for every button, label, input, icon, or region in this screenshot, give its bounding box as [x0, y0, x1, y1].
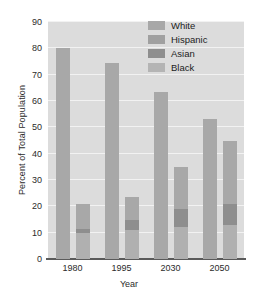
y-tick-label: 90: [14, 17, 42, 27]
y-tick-label: 80: [14, 43, 42, 53]
bar-segment-black: [174, 227, 188, 259]
y-tick-label: 10: [14, 228, 42, 238]
legend-label: White: [171, 21, 195, 31]
x-tick-label: 1995: [99, 263, 145, 273]
legend-swatch-icon: [148, 63, 165, 72]
x-tick-label: 2030: [148, 263, 194, 273]
bar-segment-asian: [174, 209, 188, 227]
y-tick-label: 60: [14, 96, 42, 106]
bar-white: [56, 48, 70, 259]
legend-item-white: White: [148, 20, 207, 31]
legend-item-asian: Asian: [148, 48, 207, 59]
bar-segment-black: [125, 230, 139, 259]
x-tick-label: 1980: [50, 263, 96, 273]
bar-stacked-minority: [223, 141, 237, 260]
y-tick-label: 50: [14, 122, 42, 132]
bar-segment-hispanic: [125, 197, 139, 219]
bar-white: [154, 92, 168, 259]
bar-stacked-minority: [174, 167, 188, 259]
y-tick-label: 30: [14, 175, 42, 185]
y-tick-label: 0: [14, 254, 42, 264]
bar-segment-asian: [223, 204, 237, 225]
chart-legend: WhiteHispanicAsianBlack: [148, 20, 207, 73]
legend-label: Hispanic: [171, 35, 207, 45]
legend-swatch-icon: [148, 35, 165, 44]
legend-item-hispanic: Hispanic: [148, 34, 207, 45]
legend-swatch-icon: [148, 21, 165, 30]
bar-white: [203, 119, 217, 259]
bar-stacked-minority: [125, 197, 139, 259]
bar-white: [105, 63, 119, 259]
bar-segment-asian: [125, 220, 139, 231]
y-tick-label: 20: [14, 201, 42, 211]
legend-label: Asian: [171, 49, 195, 59]
bar-segment-hispanic: [223, 141, 237, 204]
bar-stacked-minority: [76, 204, 90, 259]
population-bar-chart: Percent of Total Population 010203040506…: [0, 0, 258, 297]
bar-segment-black: [223, 225, 237, 259]
y-tick-label: 40: [14, 149, 42, 159]
legend-item-black: Black: [148, 62, 207, 73]
bar-segment-black: [76, 233, 90, 259]
y-tick-label: 70: [14, 70, 42, 80]
bar-segment-asian: [76, 229, 90, 233]
x-tick-label: 2050: [197, 263, 243, 273]
x-axis-title: Year: [0, 279, 258, 289]
legend-label: Black: [171, 63, 194, 73]
bar-segment-hispanic: [76, 204, 90, 229]
bar-segment-hispanic: [174, 167, 188, 209]
legend-swatch-icon: [148, 49, 165, 58]
